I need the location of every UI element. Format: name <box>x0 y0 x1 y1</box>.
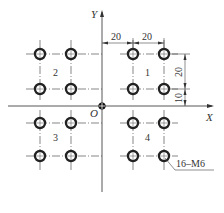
y-axis-label: Y <box>91 8 99 20</box>
dim-arrow-icon <box>184 83 187 89</box>
quadrant-label-1: 1 <box>145 67 150 78</box>
dim-arrow-icon <box>158 42 164 45</box>
dim-arrow-icon <box>184 54 187 60</box>
quadrant-label-2: 2 <box>53 67 58 78</box>
dim-horizontal-2: 20 <box>142 31 152 42</box>
dim-arrow-icon <box>127 42 133 45</box>
dim-vertical-2: 10 <box>173 93 184 103</box>
dim-arrow-icon <box>133 42 139 45</box>
callout-label: 16–M6 <box>176 158 205 169</box>
dim-horizontal-1: 20 <box>111 31 121 42</box>
origin-marker-icon <box>98 102 105 109</box>
y-axis-arrow-icon <box>100 10 104 17</box>
quadrant-label-3: 3 <box>53 132 58 143</box>
origin-label: O <box>90 107 98 119</box>
x-axis-label: X <box>205 111 214 123</box>
x-axis-arrow-icon <box>207 104 214 108</box>
dim-vertical-1: 20 <box>173 67 184 77</box>
quadrant-label-4: 4 <box>145 132 150 143</box>
hole-pattern-drawing: Y X O 1 2 3 4 20 20 20 10 16–M6 <box>0 0 224 213</box>
dim-arrow-icon <box>102 42 108 45</box>
